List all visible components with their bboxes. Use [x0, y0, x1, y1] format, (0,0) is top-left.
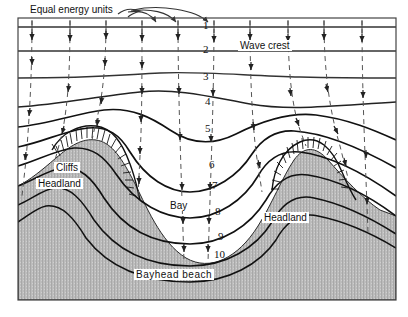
label-bay: Bay — [168, 200, 189, 211]
crest-number-5: 5 — [205, 123, 211, 134]
label-equal-energy-units: Equal energy units — [28, 4, 115, 15]
label-bayhead-beach: Bayhead beach — [134, 269, 214, 280]
label-headland-right: Headland — [262, 212, 309, 223]
crest-number-6: 6 — [209, 159, 215, 170]
crest-number-4: 4 — [205, 96, 211, 107]
crest-number-10: 10 — [214, 249, 225, 260]
crest-number-2: 2 — [203, 44, 209, 55]
label-cliffs: Cliffs — [54, 162, 80, 173]
crest-number-7: 7 — [212, 180, 218, 191]
crest-number-1: 1 — [203, 20, 209, 31]
crest-number-8: 8 — [215, 206, 221, 217]
label-wave-crest: Wave crest — [238, 40, 292, 51]
crest-number-3: 3 — [203, 71, 209, 82]
wave-refraction-figure: Equal energy units Wave crest Cliffs Hea… — [0, 0, 408, 317]
crest-number-9: 9 — [218, 231, 224, 242]
label-headland-left: Headland — [36, 178, 83, 189]
